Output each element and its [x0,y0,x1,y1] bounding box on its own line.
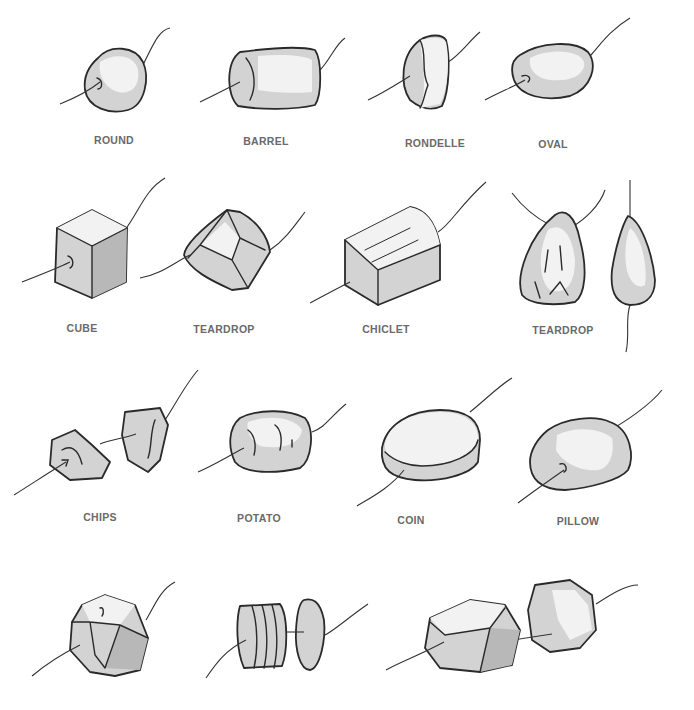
label-pillow: PILLOW [557,515,600,527]
label-barrel: BARREL [243,135,289,147]
label-potato: POTATO [237,512,281,524]
label-round: ROUND [94,134,134,146]
chiclet-bead-icon [310,182,486,305]
teardrop-faceted-bead-icon [140,210,305,290]
round-bead-icon [60,28,170,112]
cube-bead-icon [22,178,165,298]
coin-bead-icon [357,378,512,506]
nuggets-bead-icon [386,580,638,672]
label-teardrop-faceted: TEARDROP [193,323,254,335]
disks-bead-icon [206,599,368,678]
faceted-round-bead-icon [32,582,175,676]
label-cube: CUBE [67,322,98,334]
oval-bead-icon [485,18,630,100]
chips-bead-icon [14,370,198,495]
label-rondelle: RONDELLE [405,137,465,149]
label-coin: COIN [397,514,424,526]
barrel-bead-icon [200,38,345,109]
label-oval: OVAL [538,138,568,150]
pillow-bead-icon [518,390,662,503]
label-chiclet: CHICLET [362,323,410,335]
bead-illustrations [0,0,694,710]
label-teardrop: TEARDROP [532,324,593,336]
rondelle-bead-icon [368,32,480,109]
potato-bead-icon [198,404,346,472]
label-chips: CHIPS [83,511,117,523]
